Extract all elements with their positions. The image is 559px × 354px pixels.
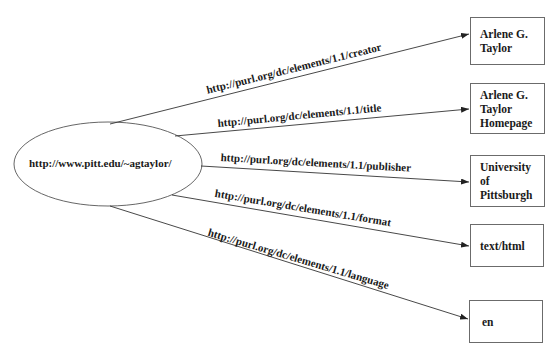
object-line: Pittsburgh [480,188,532,202]
edge-language-arrow [110,206,468,319]
object-box-language: en [469,300,543,343]
object-line: Homepage [480,116,532,130]
object-line: text/html [480,239,525,253]
object-line: Taylor [480,41,528,55]
object-line: en [482,315,494,329]
object-line: of [480,174,532,188]
object-box-creator: Arlene G. Taylor [470,17,545,65]
subject-label: http://www.pitt.edu/~agtaylor/ [29,157,172,169]
object-line: Arlene G. [480,88,532,102]
object-box-title: Arlene G. Taylor Homepage [470,83,545,134]
object-box-publisher: University of Pittsburgh [470,155,545,207]
object-box-format: text/html [470,224,544,267]
object-line: Taylor [480,102,532,116]
object-line: University [480,160,532,174]
object-line: Arlene G. [480,27,528,41]
